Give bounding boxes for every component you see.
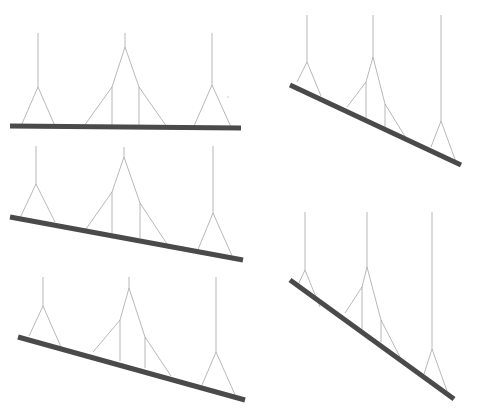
left-hanger — [20, 146, 55, 222]
cable-branch — [373, 57, 385, 104]
left-hanger — [297, 15, 321, 96]
cable-leg — [345, 287, 362, 313]
right-hanger — [194, 33, 231, 127]
cable-leg — [93, 320, 120, 352]
center-hanger — [84, 33, 167, 127]
cable-leg — [140, 203, 167, 244]
cable-leg — [43, 306, 61, 347]
diagram-canvas — [0, 0, 484, 417]
center-hanger — [86, 147, 167, 244]
panel-bottom-left — [18, 277, 245, 400]
cable-leg — [307, 62, 321, 96]
cable-branch — [362, 267, 367, 287]
cable-branch — [366, 57, 373, 82]
cable-leg — [86, 192, 112, 229]
right-hanger — [202, 277, 236, 397]
cable-leg — [139, 87, 167, 127]
cable-leg — [29, 306, 43, 336]
center-hanger — [345, 212, 400, 357]
cable-leg — [431, 121, 441, 147]
cable-leg — [212, 85, 231, 127]
beam — [290, 280, 454, 399]
beam — [10, 217, 243, 260]
panel-middle-left — [10, 146, 243, 260]
cable-leg — [424, 349, 432, 374]
cable-branch — [367, 267, 381, 320]
panel-top-left — [10, 33, 241, 128]
cable-branch — [129, 288, 145, 337]
cable-branch — [125, 47, 139, 87]
panel-bottom-right — [290, 212, 454, 399]
stray-mark — [227, 96, 228, 97]
right-hanger — [424, 212, 447, 391]
cable-leg — [197, 213, 213, 252]
cable-leg — [38, 87, 55, 126]
cable-leg — [213, 213, 233, 258]
cable-leg — [36, 184, 55, 222]
beam — [10, 126, 241, 128]
suspended-beam-diagram — [0, 0, 484, 417]
center-hanger — [347, 15, 406, 138]
cable-leg — [194, 85, 212, 126]
panel-top-right — [290, 15, 461, 165]
beam — [18, 337, 245, 400]
left-hanger — [29, 277, 61, 347]
cable-branch — [120, 288, 129, 320]
cable-branch — [112, 47, 125, 87]
cable-leg — [21, 87, 38, 126]
right-hanger — [431, 15, 456, 162]
cable-leg — [297, 62, 307, 82]
right-hanger — [197, 146, 233, 258]
cable-branch — [124, 157, 140, 203]
left-hanger — [21, 33, 55, 126]
cable-leg — [202, 352, 216, 385]
beam — [290, 85, 461, 165]
cable-branch — [112, 157, 124, 192]
cable-leg — [145, 337, 171, 376]
cable-leg — [84, 87, 112, 126]
cable-leg — [347, 82, 366, 107]
cable-leg — [20, 184, 36, 218]
